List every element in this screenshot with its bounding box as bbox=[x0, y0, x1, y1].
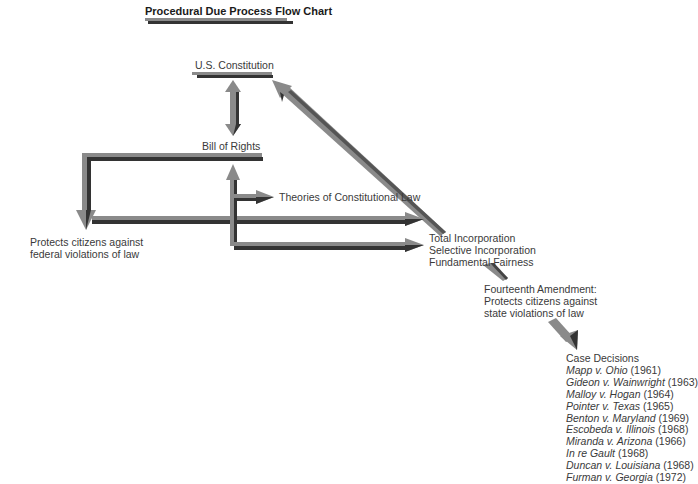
arrow-federal-incorporation bbox=[92, 212, 424, 226]
arrow-lower-incorporation bbox=[230, 238, 424, 252]
federal-line-2: federal violations of law bbox=[30, 248, 143, 260]
node-constitution: U.S. Constitution bbox=[195, 59, 274, 71]
case-item: Furman v. Georgia (1972) bbox=[566, 472, 698, 484]
arrow-theories bbox=[234, 190, 274, 204]
arrow-to-case-decisions bbox=[548, 318, 578, 350]
incorporation-selective: Selective Incorporation bbox=[429, 244, 536, 256]
incorporation-total: Total Incorporation bbox=[429, 232, 536, 244]
incorporation-fundamental: Fundamental Fairness bbox=[429, 256, 536, 268]
arrow-up-bill-of-rights bbox=[226, 164, 240, 246]
fourteenth-line-3: state violations of law bbox=[484, 307, 597, 319]
constitution-underline bbox=[192, 72, 273, 78]
federal-line-1: Protects citizens against bbox=[30, 236, 143, 248]
title-underline bbox=[145, 18, 293, 24]
node-bill-of-rights: Bill of Rights bbox=[202, 140, 260, 152]
double-arrow-constitution-bill bbox=[225, 80, 241, 136]
fourteenth-line-1: Fourteenth Amendment: bbox=[484, 283, 597, 295]
case-decisions: Case Decisions Mapp v. Ohio (1961) Gideo… bbox=[566, 353, 698, 484]
node-federal-protection: Protects citizens against federal violat… bbox=[30, 236, 143, 260]
node-fourteenth-amendment: Fourteenth Amendment: Protects citizens … bbox=[484, 283, 597, 319]
chart-title: Procedural Due Process Flow Chart bbox=[145, 5, 332, 17]
fourteenth-line-2: Protects citizens against bbox=[484, 295, 597, 307]
diagonal-arrow-to-constitution bbox=[272, 80, 446, 236]
node-theories: Theories of Constitutional Law bbox=[279, 191, 420, 203]
node-incorporation: Total Incorporation Selective Incorporat… bbox=[429, 232, 536, 268]
